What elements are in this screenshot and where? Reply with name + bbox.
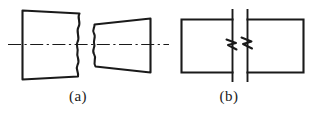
figure-sheet: (a) (b) xyxy=(0,0,317,114)
engineering-drawing-canvas xyxy=(0,0,317,114)
drawing-background xyxy=(0,0,317,114)
